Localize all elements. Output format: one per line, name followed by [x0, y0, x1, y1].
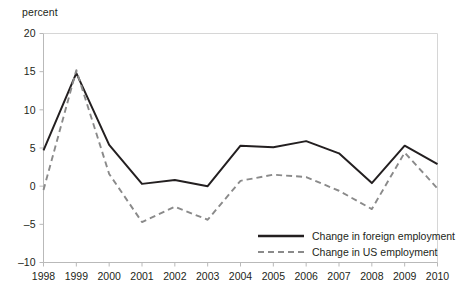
legend-layer: Change in foreign employmentChange in US…: [258, 230, 455, 258]
x-axis-tick: 2000: [97, 263, 121, 282]
y-axis-tick: 5: [30, 142, 44, 154]
x-axis-tick-label: 2001: [130, 270, 154, 282]
y-axis-tick: –5: [24, 218, 44, 230]
x-axis-tick-label: 2004: [229, 270, 253, 282]
x-axis-tick: 2010: [426, 263, 450, 282]
y-axis-tick-label: 10: [24, 104, 36, 116]
series-line-1: [44, 73, 438, 186]
x-axis-tick: 2009: [393, 263, 417, 282]
x-axis-tick: 2008: [360, 263, 384, 282]
x-axis-tick-label: 2006: [294, 270, 318, 282]
y-axis-tick: 15: [24, 65, 44, 77]
y-axis-tick-label: 15: [24, 65, 36, 77]
x-axis-tick-label: 1998: [32, 270, 56, 282]
x-axis-tick: 2001: [130, 263, 154, 282]
x-axis-tick-label: 1999: [65, 270, 89, 282]
y-axis-tick-label: –10: [18, 256, 36, 268]
plot-frame: [44, 34, 438, 263]
x-axis-tick: 2004: [229, 263, 253, 282]
series-layer: [44, 70, 438, 222]
y-axis-tick-label: 20: [24, 27, 36, 39]
legend-label: Change in US employment: [312, 246, 438, 258]
x-axis-tick-label: 2002: [163, 270, 187, 282]
x-axis-tick: 2002: [163, 263, 187, 282]
x-axis-tick-label: 2009: [393, 270, 417, 282]
x-axis-tick-label: 2007: [327, 270, 351, 282]
x-axis-tick-label: 2008: [360, 270, 384, 282]
x-axis-tick: 2005: [262, 263, 286, 282]
legend-item: Change in foreign employment: [258, 230, 455, 242]
y-axis-tick: 0: [30, 180, 44, 192]
x-axis-tick: 2007: [327, 263, 351, 282]
y-axis-tick-label: 0: [30, 180, 36, 192]
x-axis-tick: 1999: [65, 263, 89, 282]
x-axis-tick-label: 2000: [97, 270, 121, 282]
y-axis-tick: 10: [24, 104, 44, 116]
legend-label: Change in foreign employment: [312, 230, 455, 242]
y-axis-tick-label: –5: [24, 218, 36, 230]
y-axis-tick: 20: [24, 27, 44, 39]
x-axis-tick: 2006: [294, 263, 318, 282]
chart-container: percent 20151050–5–101998199920002001200…: [0, 0, 459, 298]
y-axis-tick-label: 5: [30, 142, 36, 154]
legend-item: Change in US employment: [258, 246, 438, 258]
line-chart-plot: 20151050–5–10199819992000200120022003200…: [0, 0, 459, 298]
x-axis-tick-label: 2003: [196, 270, 220, 282]
y-axis-tick: –10: [18, 256, 44, 268]
x-axis-tick-label: 2005: [262, 270, 286, 282]
x-axis-tick: 2003: [196, 263, 220, 282]
x-axis-tick-label: 2010: [426, 270, 450, 282]
